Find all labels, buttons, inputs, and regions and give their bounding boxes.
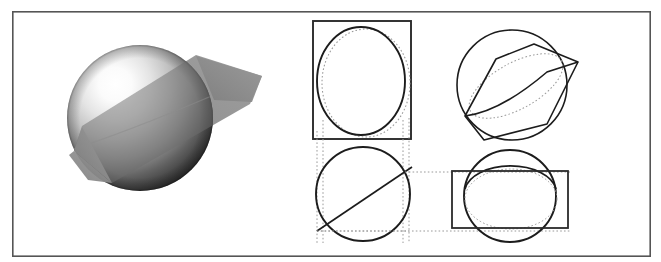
panel-side-view [452,150,568,242]
top-view-circle [316,147,410,241]
top-view-cutting-plane-edge [317,167,412,231]
pictorial-plane-front-edge [465,62,578,116]
panel-front-view [313,21,411,243]
figure-canvas [0,0,661,262]
panel-rendered-sphere [67,45,262,191]
panel-pictorial-view [457,30,578,140]
figure-root: Sphere intersected by a plane with ortho… [0,0,661,262]
front-view-hidden-ellipse [322,29,410,137]
panel-top-view [316,147,412,241]
front-view-circle [317,27,405,135]
projection-connectors [317,172,570,231]
front-view-bounding-rect [313,21,411,139]
pictorial-sphere-outline [457,30,567,140]
side-view-hidden-ellipse [465,169,557,229]
